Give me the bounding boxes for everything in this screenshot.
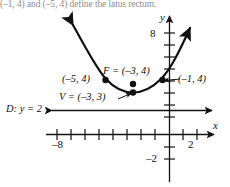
x-tick-label-neg8: –8: [52, 139, 63, 150]
leader-vertex: [118, 94, 131, 100]
point-left-endpoint: [102, 77, 108, 83]
parabola-figure: (–1, 4) and (–5, 4) define the latus rec…: [0, 0, 230, 187]
y-tick-label-neg2: –2: [146, 153, 157, 164]
x-tick-label-2: 2: [188, 139, 194, 150]
graph-canvas: [0, 0, 230, 187]
y-tick-label-8: 8: [150, 28, 156, 39]
right-endpoint-label: (–1, 4): [178, 74, 206, 85]
directrix-label: D: y = 2: [6, 104, 42, 115]
y-axis: [164, 16, 175, 182]
point-vertex: [130, 89, 136, 95]
x-axis-label: x: [213, 120, 218, 131]
y-axis-label: y: [160, 12, 165, 23]
focus-label: F = (–3, 4): [103, 66, 150, 77]
marked-points: [102, 77, 165, 96]
point-focus: [130, 81, 136, 87]
left-endpoint-label: (–5, 4): [62, 74, 90, 85]
vertex-label: V = (–3, 3): [59, 92, 106, 103]
